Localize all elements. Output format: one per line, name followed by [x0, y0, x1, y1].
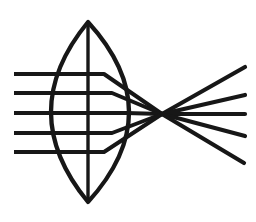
lens-ray-diagram-figure	[0, 0, 256, 222]
refracted-ray-3	[126, 113, 162, 114]
lens-diagram-canvas	[0, 0, 256, 222]
